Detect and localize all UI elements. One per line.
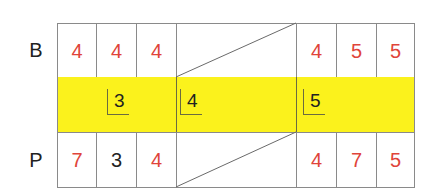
divisor-3: 3 <box>107 89 129 115</box>
row-label-b: B <box>26 40 46 60</box>
divisor-4: 4 <box>180 89 202 115</box>
top-diagonal-line <box>176 23 297 78</box>
top-cell-4: 4 <box>296 23 337 78</box>
top-cell-1: 4 <box>57 23 97 78</box>
top-cell-3: 4 <box>136 23 177 78</box>
divisor-5: 5 <box>303 89 325 115</box>
bottom-cell-4: 4 <box>296 132 337 188</box>
number-grid: 4 4 4 4 5 5 3 4 5 7 3 4 4 7 5 <box>57 23 415 188</box>
band-divider-2 <box>296 77 297 133</box>
band-divider-1 <box>176 77 177 133</box>
bottom-diagonal-line <box>176 132 297 188</box>
bottom-cell-6: 5 <box>376 132 415 188</box>
yellow-divisor-band: 3 4 5 <box>57 77 415 133</box>
bottom-cell-5: 7 <box>336 132 377 188</box>
row-label-p: P <box>26 150 46 170</box>
top-cell-5: 5 <box>336 23 377 78</box>
bottom-cell-2: 3 <box>96 132 137 188</box>
top-cell-6: 5 <box>376 23 415 78</box>
bottom-cell-1: 7 <box>57 132 97 188</box>
top-cell-2: 4 <box>96 23 137 78</box>
bottom-cell-3: 4 <box>136 132 177 188</box>
